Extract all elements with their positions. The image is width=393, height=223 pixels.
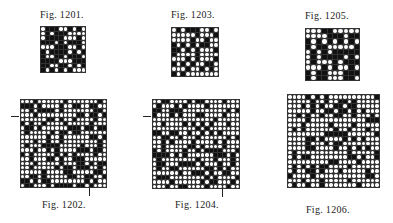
weave-cell: [371, 169, 375, 173]
weave-cell: [68, 162, 71, 165]
weave-cell: [322, 29, 326, 33]
weave-cell: [322, 39, 326, 43]
weave-cell: [371, 95, 375, 99]
weave-cell: [153, 127, 156, 130]
weave-cell: [339, 151, 343, 155]
weave-cell: [170, 158, 173, 161]
weave-cell: [205, 113, 208, 116]
weave-cell: [183, 118, 186, 121]
weave-cell: [179, 109, 182, 112]
weave-cell: [317, 39, 321, 43]
weave-cell: [201, 180, 204, 183]
weave-cell: [196, 122, 199, 125]
weave-cell: [68, 50, 72, 54]
weave-cell: [325, 179, 329, 183]
weave-cell: [162, 158, 165, 161]
weave-cell: [59, 41, 63, 45]
weave-cell: [352, 137, 356, 141]
weave-cell: [77, 113, 80, 116]
weave-cell: [55, 153, 58, 156]
weave-cell: [85, 166, 88, 169]
weave-cell: [77, 55, 81, 59]
weave-cell: [166, 171, 169, 174]
weave-cell: [25, 148, 28, 151]
weave-cell: [205, 127, 208, 130]
weave-cell: [103, 166, 106, 169]
weave-cell: [334, 146, 338, 150]
weave-cell: [162, 104, 165, 107]
weave-cell: [302, 179, 306, 183]
weave-cell: [231, 162, 234, 165]
weave-cell: [64, 59, 68, 63]
weave-cell: [317, 50, 321, 54]
weave-cell: [349, 39, 353, 43]
weave-cell: [329, 114, 333, 118]
weave-cell: [210, 100, 213, 103]
weave-cell: [306, 60, 310, 64]
weave-cell: [316, 118, 320, 122]
weave-cell: [172, 57, 176, 61]
weave-cell: [192, 158, 195, 161]
weave-cell: [223, 158, 226, 161]
weave-cell: [90, 153, 93, 156]
weave-cell: [348, 137, 352, 141]
weave-cell: [343, 169, 347, 173]
weave-cell: [196, 171, 199, 174]
weave-cell: [227, 127, 230, 130]
weave-cell: [231, 118, 234, 121]
weave-cell: [320, 128, 324, 132]
weave-cell: [157, 153, 160, 156]
weave-cell: [306, 142, 310, 146]
weave-cell: [162, 176, 165, 179]
weave-cell: [297, 114, 301, 118]
weave-cell: [157, 136, 160, 139]
weave-cell: [47, 104, 50, 107]
weave-cell: [153, 171, 156, 174]
weave-cell: [201, 162, 204, 165]
weave-cell: [55, 122, 58, 125]
weave-cell: [181, 62, 185, 66]
weave-cell: [77, 140, 80, 143]
weave-cell: [288, 109, 292, 113]
weave-cell: [47, 166, 50, 169]
weave-cell: [205, 140, 208, 143]
weave-cell: [306, 118, 310, 122]
weave-cell: [25, 184, 28, 187]
weave-cell: [42, 162, 45, 165]
weave-cell: [316, 179, 320, 183]
weave-cell: [179, 145, 182, 148]
weave-cell: [325, 146, 329, 150]
weave-cell: [325, 183, 329, 187]
weave-cell: [348, 100, 352, 104]
weave-cell: [41, 50, 45, 54]
weave-cell: [170, 167, 173, 170]
weave-cell: [47, 100, 50, 103]
weave-cell: [38, 148, 41, 151]
weave-cell: [81, 109, 84, 112]
weave-cell: [55, 175, 58, 178]
weave-cell: [302, 132, 306, 136]
weave-cell: [200, 57, 204, 61]
weave-cell: [343, 132, 347, 136]
weave-cell: [191, 28, 195, 32]
weave-cell: [317, 71, 321, 75]
weave-cell: [162, 162, 165, 165]
weave-cell: [210, 153, 213, 156]
weave-cell: [183, 153, 186, 156]
weave-cell: [179, 153, 182, 156]
weave-cell: [64, 32, 68, 36]
weave-cell: [186, 72, 190, 76]
weave-cell: [344, 34, 348, 38]
weave-cell: [175, 140, 178, 143]
weave-cell: [231, 113, 234, 116]
weave-cell: [214, 48, 218, 52]
weave-cell: [306, 165, 310, 169]
weave-cell: [191, 72, 195, 76]
weave-cell: [90, 135, 93, 138]
weave-cell: [42, 157, 45, 160]
weave-cell: [214, 104, 217, 107]
weave-cell: [218, 167, 221, 170]
weave-cell: [311, 76, 315, 80]
weave-cell: [68, 45, 72, 49]
weave-cell: [51, 100, 54, 103]
